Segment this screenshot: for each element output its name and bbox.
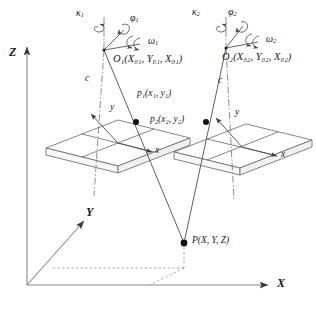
world-axis-y [27, 221, 84, 285]
right-image-plane [174, 124, 312, 175]
left-image-axis-y-label: y [110, 103, 114, 113]
ground-point-label: P(X, Y, Z) [192, 236, 229, 246]
axis-label-z: Z [9, 46, 16, 58]
axis-label-x: X [277, 277, 285, 289]
right-perspective-center-label: O₂(X₀₂, Y₀₂, X₀₂) [222, 52, 291, 63]
axis-label-y: Y [86, 206, 93, 218]
right-image-axis-x-label: x [281, 150, 285, 160]
left-image-plane [46, 120, 190, 173]
image-point-p1-label: p₁(x₁, y₁) [137, 89, 171, 99]
left-image-axis-x-label: x [155, 146, 159, 156]
left-kappa-label: κ1 [76, 8, 84, 19]
image-point-p2-dot [203, 119, 209, 125]
right-rotation-gizmo [216, 22, 259, 48]
image-point-p1-dot [133, 119, 139, 125]
left-phi-label: φ1 [130, 13, 139, 24]
left-rotation-gizmo [94, 24, 140, 50]
right-kappa-label: κ2 [192, 7, 200, 18]
left-focal-length-label: c [85, 74, 89, 84]
right-focal-length-label: c [218, 76, 222, 86]
right-image-axis-y-label: y [235, 108, 239, 118]
left-perspective-center-label: O₁(X₀₁, Y₀₁, X₀₁) [113, 54, 182, 65]
ground-projection-lines [52, 243, 184, 285]
ground-point-dot [181, 240, 188, 247]
right-perspective-center-dot [224, 46, 227, 49]
left-omega-label: ω1 [148, 36, 158, 47]
photogrammetry-diagram: Z X Y κ1 φ1 ω1 κ2 φ2 ω2 O₁(X₀₁, Y₀₁, X₀₁… [0, 0, 316, 309]
right-phi-label: φ2 [228, 7, 237, 18]
left-perspective-center-dot [102, 48, 105, 51]
right-omega-label: ω2 [266, 34, 276, 45]
image-point-p2-label: p₂(x₂, y₂) [150, 115, 184, 125]
